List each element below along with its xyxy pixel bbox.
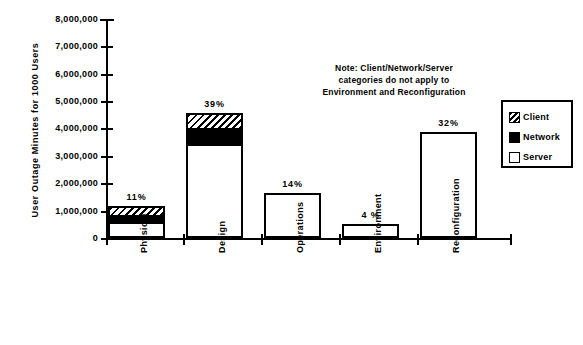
y-tick-2000000 <box>101 183 113 185</box>
y-tick-label-1000000: 1,000,000 <box>20 206 98 216</box>
bar-physical-segment-network <box>108 215 165 222</box>
y-tick-6000000 <box>101 74 113 76</box>
x-tick-3 <box>339 234 341 245</box>
chart-legend: Client Network Server <box>501 100 573 168</box>
legend-label-client: Client <box>523 112 549 122</box>
chart-figure: User Outage Minutes for 1000 Users 8,000… <box>0 0 583 345</box>
y-tick-5000000 <box>101 101 113 103</box>
legend-swatch-server-icon <box>509 152 520 163</box>
bar-reconfiguration[interactable] <box>420 132 477 238</box>
x-axis-label-design: Design <box>217 221 227 253</box>
legend-item-server[interactable]: Server <box>509 147 571 167</box>
y-tick-label-5000000: 5,000,000 <box>20 96 98 106</box>
y-tick-8000000 <box>100 19 114 21</box>
bar-label-design: 39% <box>186 99 243 109</box>
x-axis-label-operations: Operations <box>295 201 305 253</box>
y-tick-4000000 <box>101 128 113 130</box>
legend-swatch-client-icon <box>509 112 520 123</box>
x-tick-4 <box>417 234 419 245</box>
y-tick-label-4000000: 4,000,000 <box>20 123 98 133</box>
bar-operations-segment-server <box>264 193 321 238</box>
plot-area: 8,000,000 7,000,000 6,000,000 5,000,000 … <box>0 0 583 345</box>
bar-operations[interactable] <box>264 193 321 238</box>
chart-note-line-1: Note: Client/Network/Server <box>296 62 492 74</box>
y-tick-label-6000000: 6,000,000 <box>20 69 98 79</box>
bar-design-segment-client <box>186 113 243 128</box>
chart-note: Note: Client/Network/Server categories d… <box>296 62 492 98</box>
bar-design[interactable] <box>186 113 243 238</box>
bar-label-physical: 11% <box>108 192 165 202</box>
bar-physical[interactable] <box>108 206 165 238</box>
bar-design-segment-server <box>186 144 243 238</box>
y-tick-7000000 <box>101 46 113 48</box>
x-axis-label-physical: Physical <box>139 213 149 253</box>
y-tick-label-2000000: 2,000,000 <box>20 178 98 188</box>
x-axis-label-environment: Environment <box>373 194 383 253</box>
y-tick-label-8000000: 8,000,000 <box>20 14 98 24</box>
bar-physical-segment-server <box>108 222 165 238</box>
y-tick-label-7000000: 7,000,000 <box>20 41 98 51</box>
bar-reconfiguration-segment-server <box>420 132 477 238</box>
bar-label-operations: 14% <box>264 179 321 189</box>
chart-note-line-2: categories do not apply to <box>296 74 492 86</box>
bar-physical-segment-client <box>108 206 165 215</box>
bar-environment-segment-server <box>342 224 399 238</box>
legend-swatch-network-icon <box>509 132 520 143</box>
legend-item-network[interactable]: Network <box>509 127 571 147</box>
bar-environment[interactable] <box>342 224 399 238</box>
bar-design-segment-network <box>186 128 243 144</box>
legend-label-network: Network <box>523 132 560 142</box>
legend-label-server: Server <box>523 152 552 162</box>
x-tick-5 <box>510 234 512 245</box>
bar-label-reconfiguration: 32% <box>420 118 477 128</box>
legend-item-client[interactable]: Client <box>509 107 571 127</box>
y-tick-label-0: 0 <box>20 233 98 243</box>
y-tick-3000000 <box>101 156 113 158</box>
x-tick-2 <box>261 234 263 245</box>
x-tick-1 <box>183 234 185 245</box>
chart-note-line-3: Environment and Reconfiguration <box>296 86 492 98</box>
y-tick-label-3000000: 3,000,000 <box>20 151 98 161</box>
bar-label-environment: 4 % <box>342 210 399 220</box>
x-axis-label-reconfiguration: Reconfiguration <box>451 178 461 253</box>
